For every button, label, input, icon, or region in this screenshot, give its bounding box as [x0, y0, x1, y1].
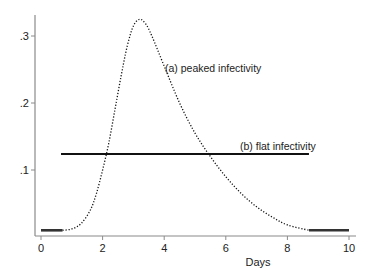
x-tick-label: 8 [284, 242, 290, 254]
y-tick-label: .3 [20, 30, 29, 42]
peaked-infectivity-curve [63, 19, 309, 230]
y-ticks: .1 .2 .3 [20, 30, 35, 176]
x-axis-title: Days [245, 256, 271, 268]
y-tick-label: .1 [20, 164, 29, 176]
x-tick-label: 0 [38, 242, 44, 254]
axes [35, 15, 356, 236]
annotation-flat: (b) flat infectivity [240, 140, 317, 152]
y-tick-label: .2 [20, 97, 29, 109]
x-ticks: 0 2 4 6 8 10 [38, 236, 355, 254]
x-tick-label: 10 [343, 242, 355, 254]
infectivity-chart: .1 .2 .3 0 2 4 6 8 10 Days (a) peaked in… [0, 0, 374, 273]
annotation-peaked: (a) peaked infectivity [165, 62, 262, 74]
x-tick-label: 4 [161, 242, 167, 254]
series-layer [41, 19, 349, 230]
x-tick-label: 6 [223, 242, 229, 254]
x-tick-label: 2 [100, 242, 106, 254]
